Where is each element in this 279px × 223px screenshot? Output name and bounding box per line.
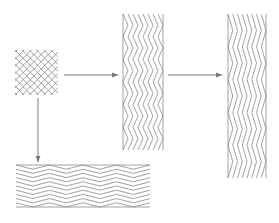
- arrow-down: [36, 98, 41, 162]
- arrowhead-icon: [36, 156, 41, 162]
- arrowhead-icon: [112, 73, 118, 78]
- horizontal-stretched-mesh: [16, 165, 150, 207]
- vertical-elongated-mesh: [228, 14, 266, 178]
- arrow-right-1: [64, 73, 118, 78]
- mesh-group: [0, 14, 266, 207]
- mesh-diagram: [0, 0, 279, 223]
- arrowhead-icon: [216, 73, 222, 78]
- arrow-right-2: [168, 73, 222, 78]
- vertical-stretched-mesh: [123, 14, 163, 150]
